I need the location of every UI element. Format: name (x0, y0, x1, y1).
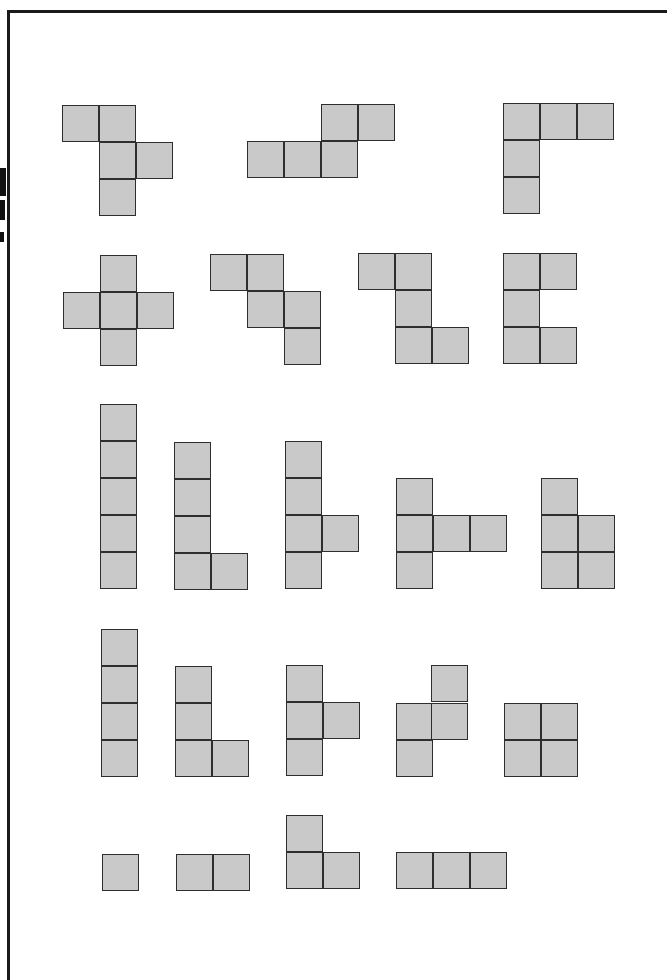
square-cell (541, 552, 578, 589)
square-cell (504, 703, 541, 740)
square-cell (101, 666, 138, 703)
square-cell (176, 854, 213, 891)
square-cell (100, 329, 137, 366)
square-cell (433, 515, 470, 552)
square-cell (323, 852, 360, 889)
square-cell (321, 141, 358, 178)
square-cell (540, 103, 577, 140)
square-cell (210, 254, 247, 291)
square-cell (321, 104, 358, 141)
square-cell (503, 290, 540, 327)
square-cell (285, 478, 322, 515)
square-cell (358, 253, 395, 290)
square-cell (504, 740, 541, 777)
square-cell (62, 105, 99, 142)
square-cell (100, 404, 137, 441)
square-cell (396, 703, 433, 740)
square-cell (396, 552, 433, 589)
square-cell (286, 815, 323, 852)
square-cell (323, 702, 360, 739)
square-cell (396, 478, 433, 515)
square-cell (286, 665, 323, 702)
square-cell (213, 854, 250, 891)
square-cell (99, 179, 136, 216)
square-cell (541, 703, 578, 740)
square-cell (541, 740, 578, 777)
square-cell (540, 327, 577, 364)
square-cell (395, 290, 432, 327)
square-cell (100, 515, 137, 552)
square-cell (99, 142, 136, 179)
square-cell (247, 291, 284, 328)
square-cell (101, 740, 138, 777)
square-cell (100, 441, 137, 478)
square-cell (395, 253, 432, 290)
square-cell (284, 328, 321, 365)
square-cell (285, 515, 322, 552)
square-cell (358, 104, 395, 141)
square-cell (395, 327, 432, 364)
square-cell (396, 740, 433, 777)
square-cell (175, 703, 212, 740)
square-cell (541, 478, 578, 515)
square-cell (174, 516, 211, 553)
square-cell (211, 553, 248, 590)
square-cell (101, 703, 138, 740)
square-cell (175, 740, 212, 777)
square-cell (577, 103, 614, 140)
square-cell (396, 852, 433, 889)
square-cell (174, 479, 211, 516)
square-cell (102, 854, 139, 891)
square-cell (63, 292, 100, 329)
square-cell (247, 254, 284, 291)
square-cell (101, 629, 138, 666)
square-cell (541, 515, 578, 552)
square-cell (175, 666, 212, 703)
square-cell (431, 703, 468, 740)
square-cell (432, 327, 469, 364)
square-cell (470, 515, 507, 552)
square-cell (99, 105, 136, 142)
square-cell (100, 552, 137, 589)
square-cell (247, 141, 284, 178)
square-cell (322, 515, 359, 552)
square-cell (578, 515, 615, 552)
square-cell (100, 478, 137, 515)
clipped-edge-glyph (0, 200, 5, 220)
square-cell (503, 140, 540, 177)
square-cell (286, 739, 323, 776)
square-cell (285, 552, 322, 589)
square-cell (137, 292, 174, 329)
square-cell (286, 702, 323, 739)
square-cell (100, 292, 137, 329)
square-cell (174, 442, 211, 479)
clipped-edge-glyph (0, 168, 6, 196)
square-cell (396, 515, 433, 552)
square-cell (470, 852, 507, 889)
square-cell (285, 441, 322, 478)
square-cell (431, 665, 468, 702)
square-cell (503, 103, 540, 140)
square-cell (284, 291, 321, 328)
square-cell (136, 142, 173, 179)
square-cell (212, 740, 249, 777)
clipped-edge-glyph (0, 232, 4, 242)
square-cell (286, 852, 323, 889)
square-cell (540, 253, 577, 290)
square-cell (100, 255, 137, 292)
square-cell (284, 141, 321, 178)
square-cell (433, 852, 470, 889)
square-cell (503, 253, 540, 290)
square-cell (174, 553, 211, 590)
square-cell (578, 552, 615, 589)
square-cell (503, 177, 540, 214)
square-cell (503, 327, 540, 364)
